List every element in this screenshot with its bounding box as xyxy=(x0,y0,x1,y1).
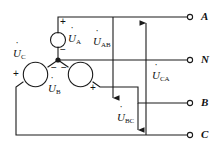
wire-ua-plus-to-terminal-a xyxy=(58,17,192,33)
terminal-label-n: N xyxy=(201,54,209,65)
voltage-label-uca: UCA xyxy=(152,70,170,81)
phasor-subscript-a: A xyxy=(76,38,81,46)
wire-uc-plus-to-terminal-c xyxy=(16,82,192,135)
source-label-ua: UA xyxy=(68,33,81,44)
terminal-dot-n xyxy=(187,57,192,62)
terminal-label-c: C xyxy=(201,129,208,140)
phasor-subscript-ab: AB xyxy=(101,41,111,49)
phasor-symbol-u: U xyxy=(152,70,160,81)
phasor-symbol-u: U xyxy=(117,112,125,123)
terminal-label-b: B xyxy=(201,97,208,108)
source-label-uc: UC xyxy=(13,48,26,59)
terminal-label-a: A xyxy=(201,11,208,22)
phasor-symbol-u: U xyxy=(48,83,56,94)
terminal-dots-group xyxy=(187,14,192,137)
polarity-minus-uc: − xyxy=(51,63,57,73)
phasor-symbol-u: U xyxy=(93,36,101,47)
phasor-symbol-u: U xyxy=(68,33,76,44)
phasor-subscript-c: C xyxy=(21,53,26,61)
terminal-dot-a xyxy=(187,14,192,19)
phasor-subscript-bc: BC xyxy=(125,117,134,125)
phasor-subscript-ca: CA xyxy=(160,75,170,83)
circuit-schematic-svg xyxy=(0,0,215,150)
polarity-plus-uc: + xyxy=(13,69,19,79)
terminal-dot-c xyxy=(187,132,192,137)
wire-ub-plus-to-terminal-b xyxy=(93,82,192,103)
source-label-ub: UB xyxy=(48,83,61,94)
voltage-label-ubc: UBC xyxy=(117,112,134,123)
polarity-minus-ub: − xyxy=(61,63,67,73)
polarity-plus-ub: + xyxy=(90,83,96,93)
terminal-dot-b xyxy=(187,100,192,105)
source-circle-uc xyxy=(23,62,47,86)
polarity-plus-ua: + xyxy=(60,17,66,27)
phasor-symbol-u: U xyxy=(13,48,21,59)
phasor-subscript-b: B xyxy=(56,88,61,96)
polarity-minus-ua: − xyxy=(60,45,66,55)
voltage-label-uab: UAB xyxy=(93,36,111,47)
circuit-diagram: A N B C UA + − UB − + UC − + UAB UBC UCA xyxy=(0,0,215,150)
